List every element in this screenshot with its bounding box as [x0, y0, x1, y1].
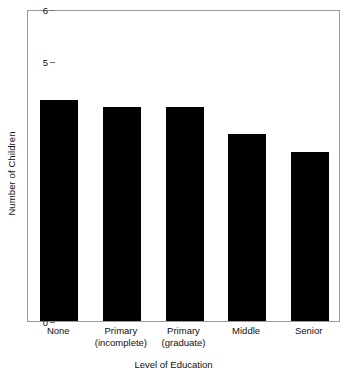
y-axis-tick-mark [50, 62, 55, 63]
plot-area: 0123456 [27, 10, 340, 322]
bar [40, 100, 78, 321]
y-axis-tick-label: 6 [43, 5, 48, 16]
x-axis-category-label-line1: Primary [105, 325, 138, 336]
x-axis-category-label-line1: None [47, 325, 70, 336]
x-axis-category-label: Middle [215, 325, 278, 337]
y-axis-tick-mark [50, 10, 55, 11]
x-axis-category-label: None [27, 325, 90, 337]
y-axis-tick-label: 5 [43, 57, 48, 68]
bar [291, 152, 329, 321]
x-axis-category-label-line1: Middle [232, 325, 260, 336]
x-axis-category-label-line2: (graduate) [152, 337, 215, 349]
x-axis-category-label-line1: Primary [167, 325, 200, 336]
bar [228, 134, 266, 321]
bar [103, 107, 141, 321]
y-axis-title: Number of Children [6, 94, 17, 254]
x-axis-category-label: Primary(incomplete) [90, 325, 153, 349]
x-axis-title: Level of Education [0, 359, 347, 370]
y-axis-tick-mark [50, 322, 55, 323]
x-axis-category-label: Primary(graduate) [152, 325, 215, 349]
x-axis-category-label: Senior [277, 325, 340, 337]
bar [166, 107, 204, 321]
x-axis-category-label-line2: (incomplete) [90, 337, 153, 349]
x-axis-category-label-line1: Senior [295, 325, 322, 336]
